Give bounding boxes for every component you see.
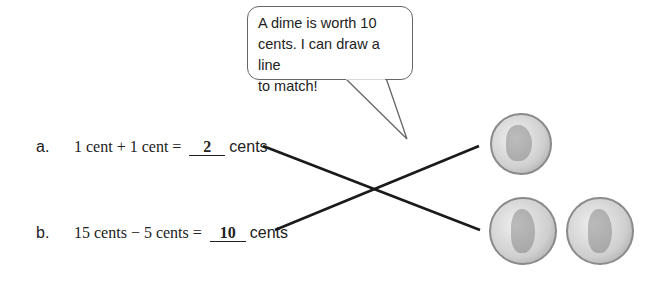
- dime-coin-icon[interactable]: [490, 113, 552, 175]
- penny-coin-icon[interactable]: [566, 197, 634, 265]
- coin-portrait: [511, 209, 535, 253]
- penny-coin-icon[interactable]: [489, 197, 557, 265]
- coin-portrait: [588, 209, 612, 253]
- matching-lines: [0, 0, 663, 284]
- coin-portrait: [506, 125, 532, 161]
